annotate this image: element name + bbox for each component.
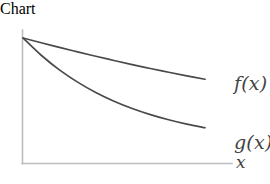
curves-group	[23, 38, 205, 128]
function-comparison-chart: f(x) g(x) x	[0, 18, 270, 184]
x-axis-label: x	[236, 154, 246, 171]
plot-area	[0, 18, 270, 184]
curve-f-of-x	[23, 38, 205, 79]
series-label-g: g(x)	[234, 133, 270, 152]
series-label-f: f(x)	[234, 74, 267, 93]
curve-g-of-x	[23, 38, 205, 128]
axes-group	[22, 30, 232, 164]
